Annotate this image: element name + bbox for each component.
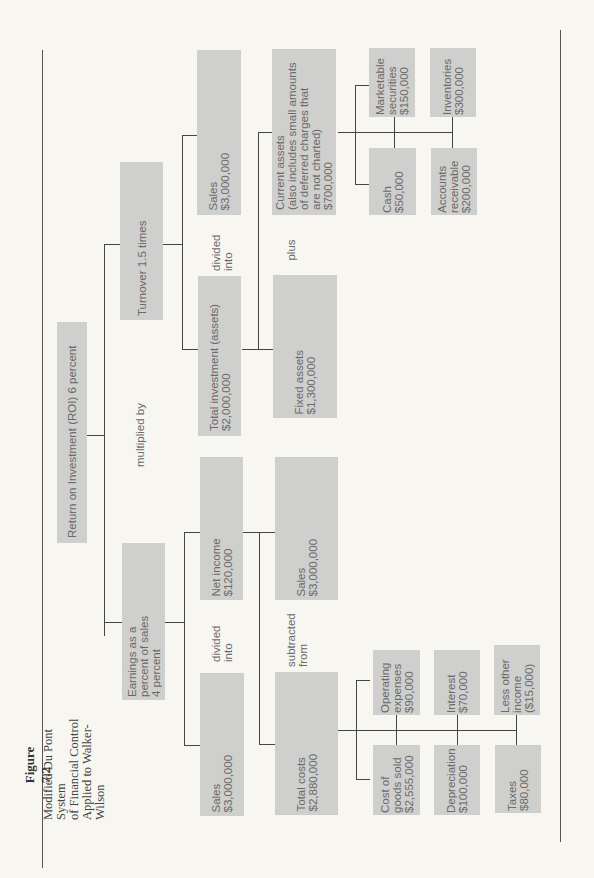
connector (356, 680, 357, 780)
connector (242, 532, 260, 533)
node-current-assets: Current assets (also includes small amou… (272, 49, 336, 215)
node-sales-earnings: Sales $3,000,000 (275, 457, 338, 600)
node-interest: Interest $70,000 (434, 650, 480, 715)
connector (259, 532, 260, 745)
connector (182, 135, 183, 350)
connector (516, 715, 517, 746)
operator-divided-into-turnover: divided into (205, 218, 239, 274)
node-taxes: Taxes $80,000 (495, 745, 541, 813)
node-accounts-receivable: Accounts receivable $200,000 (431, 148, 477, 215)
connector (356, 779, 370, 780)
connector (104, 244, 120, 245)
figure-title: Modified Du Pont System of Financial Con… (56, 690, 92, 820)
connector (184, 532, 200, 533)
connector (338, 730, 516, 731)
connector (457, 715, 458, 746)
node-cash: Cash $50,000 (369, 148, 416, 215)
node-sales-income: Sales $3,000,000 (200, 673, 244, 816)
node-turnover: Turnover 1.5 times (120, 162, 163, 320)
connector (259, 532, 275, 533)
node-depreciation: Depreciation $100,000 (434, 745, 480, 815)
operator-subtracted-from: subtracted from (280, 605, 314, 669)
node-roi: Return on Investment (ROI) 6 percent (57, 322, 87, 543)
node-total-investment: Total investment (assets) $2,000,000 (198, 276, 241, 436)
connector (104, 244, 105, 636)
operator-divided-into-earnings: divided into (205, 608, 239, 666)
operator-multiplied-by: multiplied by (120, 380, 160, 490)
node-earnings: Earnings as a percent of sales 4 percent (122, 543, 165, 700)
node-inventories: Inventories $300,000 (430, 48, 476, 117)
node-marketable-securities: Marketable securities $150,000 (369, 48, 415, 117)
node-total-costs: Total costs $2,880,000 (275, 672, 338, 815)
connector (258, 132, 259, 350)
connector (396, 715, 397, 746)
connector (87, 435, 105, 436)
node-net-income: Net income $120,000 (200, 457, 243, 600)
connector (165, 622, 184, 623)
node-operating-expenses: Operating expenses $90,000 (373, 650, 420, 715)
connector (184, 532, 185, 746)
connector (452, 117, 453, 149)
connector (163, 244, 182, 245)
connector (242, 349, 259, 350)
connector (355, 184, 369, 185)
connector (355, 85, 356, 185)
bottom-rule (560, 30, 561, 842)
node-fixed-assets: Fixed assets $1,300,000 (273, 275, 337, 418)
connector (394, 117, 395, 149)
connector (104, 622, 122, 623)
connector (184, 745, 200, 746)
operator-plus: plus (276, 230, 306, 270)
node-less-other-income: Less other income ($15,000) (494, 645, 540, 715)
connector (355, 85, 369, 86)
connector (259, 744, 275, 745)
node-sales-turnover: Sales $3,000,000 (197, 50, 241, 215)
connector (356, 680, 370, 681)
node-cost-of-goods-sold: Cost of goods sold $2,555,000 (373, 745, 420, 815)
